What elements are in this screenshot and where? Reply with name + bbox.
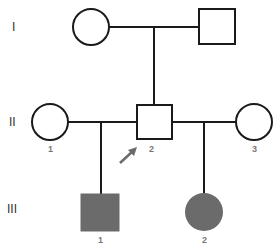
individual-I-female [73, 9, 109, 45]
individual-III-2-affected [185, 193, 223, 231]
proband-arrow-icon [120, 147, 137, 163]
generation-label-I: I [12, 20, 15, 34]
individual-number-II-2: 2 [149, 144, 154, 154]
individual-II-3 [236, 104, 272, 140]
generation-label-III: III [7, 202, 17, 216]
individual-II-1 [32, 104, 68, 140]
generation-label-II: II [9, 115, 16, 129]
individual-I-male [199, 9, 235, 44]
individual-II-2-proband [137, 105, 172, 139]
individual-III-1-affected [81, 194, 119, 231]
individual-number-III-1: 1 [98, 235, 103, 245]
individual-number-II-3: 3 [252, 144, 257, 154]
individual-number-III-2: 2 [202, 235, 207, 245]
individual-number-II-1: 1 [48, 144, 53, 154]
pedigree-chart: I II III 1 2 3 1 2 [0, 0, 280, 248]
